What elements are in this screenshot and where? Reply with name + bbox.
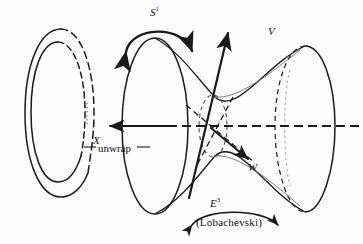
ruling-lines bbox=[186, 33, 255, 198]
hyperboloid-right-rim-front bbox=[305, 46, 335, 212]
hyperboloid-right-rim-guide bbox=[285, 70, 290, 186]
s1-double-arrow bbox=[126, 32, 192, 52]
annulus-outer-front bbox=[25, 29, 88, 197]
left-annulus bbox=[25, 29, 94, 197]
label-s1: S1 bbox=[150, 5, 159, 18]
ruling-line-dashed bbox=[186, 105, 255, 163]
label-v: V bbox=[268, 25, 275, 37]
annulus-inner-back bbox=[58, 42, 85, 156]
ruling-line-solid-v bbox=[189, 33, 228, 198]
label-e3: E3 bbox=[210, 196, 220, 209]
hyperboloid-diagram bbox=[0, 0, 363, 244]
label-unwrap: unwrap bbox=[98, 142, 131, 154]
annulus-inner-front bbox=[31, 42, 81, 182]
annulus-outer-back bbox=[61, 29, 94, 173]
label-lobachevski: (Lobachevski) bbox=[196, 216, 262, 228]
label-w: W bbox=[248, 161, 257, 173]
hyperboloid-top-profile bbox=[155, 38, 305, 101]
